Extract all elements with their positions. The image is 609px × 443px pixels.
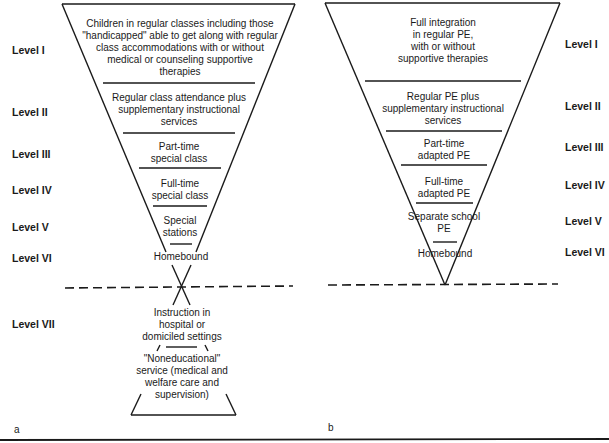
slash-a-left [157,345,160,351]
level-label-b-3: Level III [565,141,604,153]
cross-a-line-2 [173,265,191,305]
level-label-a-7: Level VII [12,318,55,330]
level-label-b-6: Level VI [565,246,605,258]
level-label-b-2: Level II [565,100,601,112]
level-label-b-1: Level I [565,38,598,50]
level-label-a-6: Level VI [12,252,52,264]
level-text-b-4: Full-time adapted PE [418,176,470,200]
level-text-b-6: Homebound [418,248,472,260]
level-text-b-5: Separate school PE [408,211,480,235]
level-label-a-5: Level V [12,221,49,233]
level-label-a-3: Level III [12,148,51,160]
level-label-a-1: Level I [12,44,45,56]
level-label-a-2: Level II [12,106,48,118]
level-text-a-1: Children in regular classes including th… [82,18,278,78]
level-text-a-2: Regular class attendance plus supplement… [112,92,246,128]
level-text-a-3: Part-time special class [151,141,208,165]
level-text-a-6: Homebound [154,251,208,263]
dashed-line-a [65,286,293,288]
level-label-a-4: Level IV [12,184,52,196]
slash-a-right [205,345,208,351]
level-text-a-7: Instruction in hospital or domiciled set… [142,307,221,343]
level-text-b-1: Full integration in regular PE, with or … [398,17,488,65]
level-label-b-5: Level V [565,215,602,227]
panel-label-a: a [14,424,20,435]
dashed-line-b [328,284,558,285]
bottom-text-a: "Noneducational" service (medical and we… [136,353,228,401]
bottom-rule [0,439,609,440]
level-label-b-4: Level IV [565,179,605,191]
level-text-a-4: Full-time special class [152,178,209,202]
panel-label-b: b [328,422,334,433]
level-text-a-5: Special stations [163,215,197,239]
level-text-b-3: Part-time adapted PE [418,138,470,162]
cross-a-line-1 [172,265,190,305]
level-text-b-2: Regular PE plus supplementary instructio… [382,91,504,127]
